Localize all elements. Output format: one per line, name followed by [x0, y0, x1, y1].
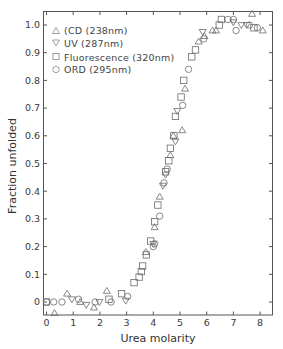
y-tick-label: 0.7	[25, 102, 40, 113]
legend-label-uv: UV (287nm)	[64, 38, 123, 49]
x-tick-label: 0	[43, 317, 49, 328]
legend-item-cd: (CD (238nm)	[53, 25, 128, 36]
y-axis-title: Fraction unfolded	[6, 118, 19, 214]
x-tick-label: 4	[150, 317, 156, 328]
legend-label-ord: ORD (295nm)	[64, 64, 131, 75]
x-tick-label: 2	[97, 317, 103, 328]
unfolding-chart: 012345678 00.10.20.30.40.50.60.70.80.91.…	[0, 0, 283, 349]
y-tick-label: 1.0	[25, 19, 40, 30]
legend-item-uv: UV (287nm)	[53, 38, 124, 49]
x-tick-label: 8	[257, 317, 263, 328]
y-tick-label: 0.4	[25, 186, 40, 197]
y-tick-label: 0.6	[25, 130, 40, 141]
y-tick-label: 0.8	[25, 75, 40, 86]
x-tick-label: 3	[124, 317, 130, 328]
legend-item-fluorescence: Fluorescence (320nm)	[53, 52, 174, 63]
legend-label-fluorescence: Fluorescence (320nm)	[64, 52, 174, 63]
x-tick-label: 1	[70, 317, 76, 328]
legend-label-cd: (CD (238nm)	[64, 25, 128, 36]
x-tick-label: 7	[230, 317, 236, 328]
x-axis-title: Urea molarity	[121, 332, 196, 345]
y-tick-label: 0.5	[25, 158, 40, 169]
y-tick-label: 0.2	[25, 241, 40, 252]
y-tick-label: 0.9	[25, 47, 40, 58]
x-tick-label: 6	[204, 317, 210, 328]
x-tick-label: 5	[177, 317, 183, 328]
y-tick-label: 0.3	[25, 213, 40, 224]
y-tick-label: 0	[34, 296, 40, 307]
legend-item-ord: ORD (295nm)	[53, 64, 132, 75]
y-tick-label: 0.1	[25, 269, 40, 280]
